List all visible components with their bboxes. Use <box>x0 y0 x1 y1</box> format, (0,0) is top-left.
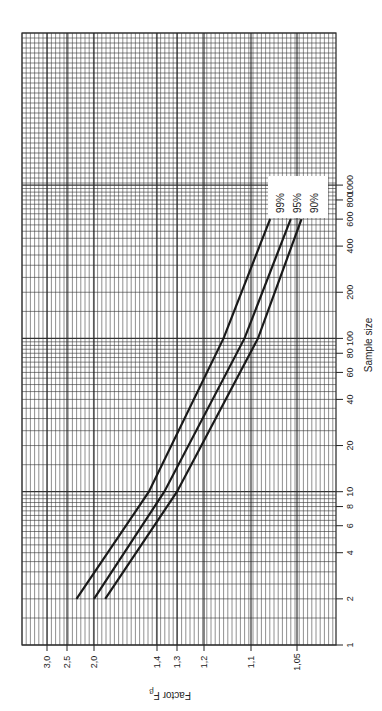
y-tick-label: 1,1 <box>246 656 256 669</box>
x-tick-label: 40 <box>345 394 355 404</box>
x-tick-label: 200 <box>345 285 355 300</box>
legend-label: 95% <box>292 193 303 213</box>
x-tick-label: 2 <box>345 596 355 601</box>
chart: 99%95%90% 124681020406080100200400600800… <box>0 0 382 711</box>
y-tick-label: 1,3 <box>172 656 182 669</box>
x-tick-label: 1 <box>345 642 355 647</box>
x-tick-label: 4 <box>345 550 355 555</box>
x-tick-label: 8 <box>345 504 355 509</box>
x-tick-label: 6 <box>345 523 355 528</box>
y-tick-label: 1,4 <box>152 656 162 669</box>
x-tick-label: 60 <box>345 367 355 377</box>
x-tick-label: 80 <box>345 348 355 358</box>
svg-text:Factor Fβ: Factor Fβ <box>149 687 191 701</box>
y-tick-label: 3,0 <box>42 656 52 669</box>
x-tick-label: 600 <box>345 212 355 227</box>
x-tick-label: 10 <box>345 487 355 497</box>
y-axis-title: Factor Fβ <box>149 687 191 701</box>
x-axis-title: Sample size <box>363 317 374 372</box>
legend-label: 90% <box>309 193 320 213</box>
x-tick-label: 100 <box>345 331 355 346</box>
x-tick-label: 400 <box>345 239 355 254</box>
x-axis-ticks: 1246810204060801002004006008001000 <box>336 175 355 647</box>
x-tick-label: 1000 <box>345 175 355 195</box>
y-tick-label: 2,0 <box>89 656 99 669</box>
legend: 99%95%90% <box>275 193 320 213</box>
x-tick-label: 20 <box>345 441 355 451</box>
y-tick-label: 2,5 <box>62 656 72 669</box>
y-tick-label: 1,05 <box>292 653 302 671</box>
y-tick-label: 1,2 <box>199 656 209 669</box>
y-axis-ticks: 3,02,52,01,41,31,21,11,05 <box>42 645 302 671</box>
legend-label: 99% <box>275 193 286 213</box>
